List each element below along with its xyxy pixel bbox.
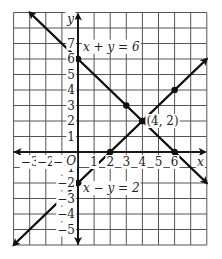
y-tick-label: 2 [67,114,75,128]
origin-label: O [66,154,76,168]
x-tick-label: −2 [37,155,55,169]
x-axis-label: x [197,155,204,169]
y-tick-label: 4 [67,83,75,97]
y-tick-label: −2 [57,176,75,190]
data-point [171,87,177,93]
data-point [123,102,129,108]
y-tick-label: −5 [57,223,75,237]
y-tick-label: 7 [67,37,75,51]
x-tick-label: 6 [171,155,179,169]
x-tick-label: 2 [106,155,114,169]
y-tick-label: 5 [67,68,75,82]
line1-equation-label: x + y = 6 [83,40,140,54]
y-tick-label: −4 [57,207,75,221]
intersection-label: (4, 2) [146,114,178,128]
y-tick-label: 3 [67,99,75,113]
graph: 7654321−1−2−3−4−5−3−2−1123456Oxyx + y = … [0,0,222,259]
x-tick-label: 5 [155,155,163,169]
x-tick-label: 3 [122,155,130,169]
y-tick-label: 6 [67,52,75,66]
x-tick-label: 1 [90,155,98,169]
x-tick-label: 4 [139,155,147,169]
y-axis-label: y [66,12,74,26]
x-tick-label: −3 [21,155,39,169]
y-tick-label: 1 [67,130,75,144]
labels: 7654321−1−2−3−4−5−3−2−1123456Oxyx + y = … [20,12,205,237]
line2-equation-label: x − y = 2 [83,181,140,195]
y-tick-label: −3 [57,192,75,206]
data-point [139,118,145,124]
